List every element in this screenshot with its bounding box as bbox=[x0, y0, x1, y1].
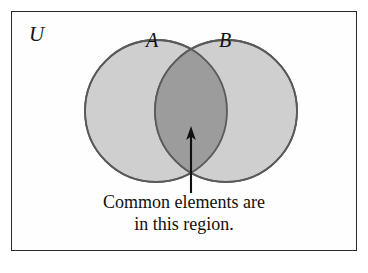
set-a-label: A bbox=[146, 30, 158, 50]
universal-set-label: U bbox=[29, 24, 44, 45]
caption-line-1: Common elements are bbox=[11, 192, 357, 214]
set-b-label: B bbox=[219, 30, 231, 50]
caption-line-2: in this region. bbox=[11, 214, 357, 236]
diagram-caption: Common elements are in this region. bbox=[11, 192, 357, 236]
venn-diagram-figure: U A B Common elements are in this region… bbox=[0, 0, 368, 273]
